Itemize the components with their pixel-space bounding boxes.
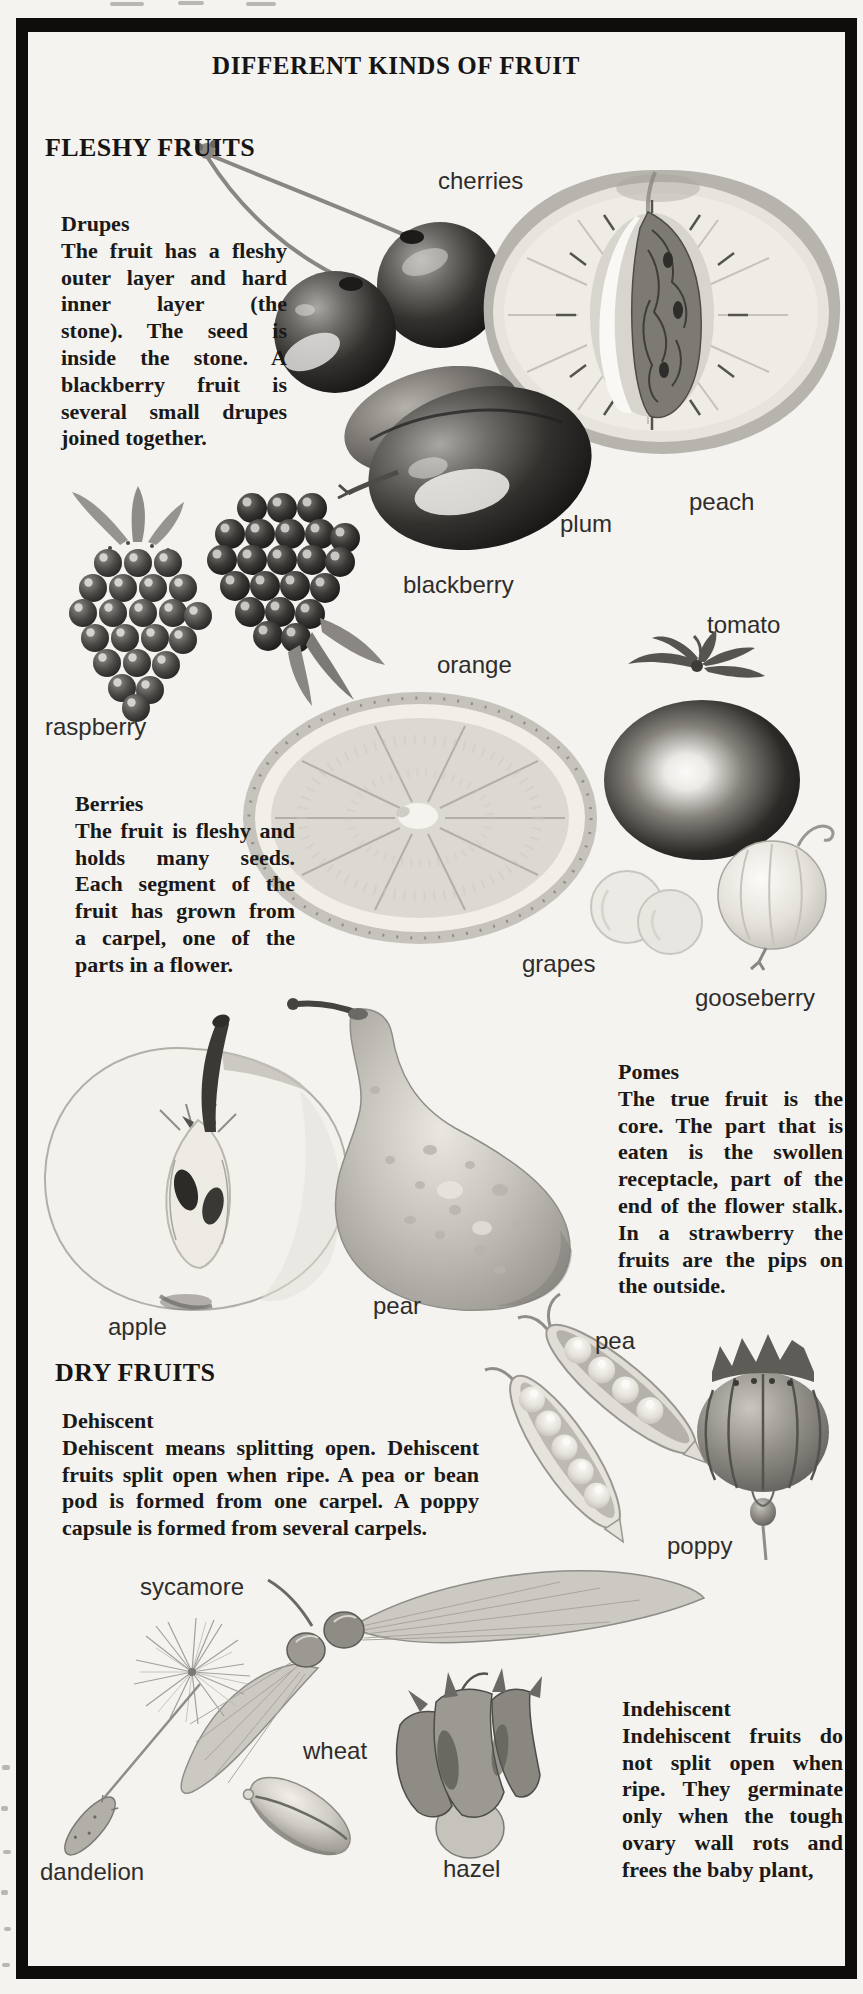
label-orange: orange (437, 651, 512, 679)
tomato-illustration (604, 630, 800, 860)
apple-illustration (45, 1012, 347, 1310)
section-heading-fleshy-fruits: FLESHY FRUITS (45, 134, 255, 163)
pomes-paragraph: Pomes The true fruit is thecore. The par… (618, 1059, 843, 1300)
dehiscent-heading: Dehiscent (62, 1408, 479, 1435)
section-heading-dry-fruits: DRY FRUITS (55, 1359, 215, 1388)
label-pea: pea (595, 1327, 635, 1355)
label-peach: peach (689, 488, 754, 516)
dehiscent-body: Dehiscent means splitting open. Dehiscen… (62, 1435, 479, 1542)
berries-body: The fruit is fleshy andholds many seeds.… (75, 818, 295, 979)
page-title: DIFFERENT KINDS OF FRUIT (96, 52, 696, 81)
grapes-illustration (591, 871, 702, 954)
dehiscent-paragraph: Dehiscent Dehiscent means splitting open… (62, 1408, 479, 1542)
pomes-heading: Pomes (618, 1059, 843, 1086)
label-grapes: grapes (522, 950, 595, 978)
label-plum: plum (560, 510, 612, 538)
label-poppy: poppy (667, 1532, 732, 1560)
indehiscent-paragraph: Indehiscent Indehiscent fruits donot spl… (622, 1696, 843, 1884)
pomes-body: The true fruit is thecore. The part that… (618, 1086, 843, 1300)
label-raspberry: raspberry (45, 713, 146, 741)
label-gooseberry: gooseberry (695, 984, 815, 1012)
orange-illustration (243, 692, 597, 944)
berries-paragraph: Berries The fruit is fleshy andholds man… (75, 791, 295, 979)
indehiscent-heading: Indehiscent (622, 1696, 843, 1723)
label-pear: pear (373, 1292, 421, 1320)
label-sycamore: sycamore (140, 1573, 244, 1601)
wheat-illustration (235, 1761, 363, 1870)
berries-heading: Berries (75, 791, 295, 818)
label-blackberry: blackberry (403, 571, 514, 599)
drupes-paragraph: Drupes The fruit has a fleshyouter layer… (61, 211, 287, 452)
book-page: DIFFERENT KINDS OF FRUIT FLESHY FRUITS D… (0, 0, 863, 1994)
label-apple: apple (108, 1313, 167, 1341)
hazel-illustration (397, 1668, 542, 1858)
label-tomato: tomato (707, 611, 780, 639)
label-dandelion: dandelion (40, 1858, 144, 1886)
indehiscent-body: Indehiscent fruits donot split open when… (622, 1723, 843, 1884)
blackberry-illustration (207, 493, 385, 706)
label-wheat: wheat (303, 1737, 367, 1765)
drupes-heading: Drupes (61, 211, 287, 238)
drupes-body: The fruit has a fleshyouter layer and ha… (61, 238, 287, 452)
raspberry-illustration (69, 486, 212, 722)
label-cherries: cherries (438, 167, 523, 195)
label-hazel: hazel (443, 1855, 500, 1883)
poppy-illustration (697, 1334, 829, 1560)
